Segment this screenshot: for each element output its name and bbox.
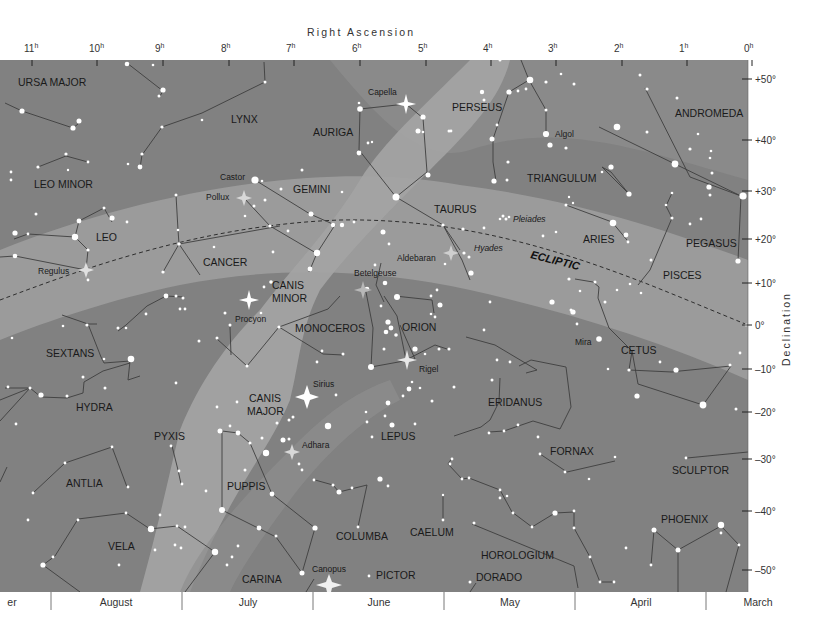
dec-axis-title: Declination [780, 292, 792, 366]
dec-tick-label: –40° [755, 506, 776, 517]
star-label-canopus: Canopus [312, 564, 346, 574]
constellation-label: LYNX [231, 113, 258, 125]
constellation-label: LEPUS [381, 430, 415, 442]
constellation-label: GEMINI [293, 183, 330, 195]
constellation-label: CANIS [272, 279, 304, 291]
constellation-label: TRIANGULUM [527, 172, 596, 184]
ra-tick-label: 2h [614, 42, 624, 54]
constellation-label: AURIGA [313, 126, 353, 138]
month-label: April [630, 596, 651, 608]
dec-tick-label: 0° [755, 320, 765, 331]
dec-tick-label: +20° [755, 234, 776, 245]
constellation-label: HYDRA [76, 401, 113, 413]
star-label-adhara: Adhara [302, 440, 330, 450]
constellation-label: MAJOR [247, 405, 284, 417]
star-label-rigel: Rigel [419, 364, 438, 374]
ra-tick-label: 5h [418, 42, 428, 54]
dec-tick-label: +10° [755, 278, 776, 289]
constellation-label: PERSEUS [452, 101, 502, 113]
constellation-label: PYXIS [154, 430, 185, 442]
dec-tick-label: –10° [755, 364, 776, 375]
constellation-label: HOROLOGIUM [481, 549, 554, 561]
dec-axis: +50°+40°+30°+20°+10°0°–10°–20°–30°–40°–5… [742, 60, 792, 592]
ra-tick-label: 7h [286, 42, 296, 54]
constellation-label: ANTLIA [66, 477, 103, 489]
star-label-procyon: Procyon [235, 314, 266, 324]
month-strip: erAugustJulyJuneMayAprilMarch [7, 592, 772, 610]
ra-tick-label: 1h [679, 42, 689, 54]
star-label-aldebaran: Aldebaran [397, 253, 436, 263]
star-label-castor: Castor [220, 172, 245, 182]
constellation-label: LEO MINOR [34, 178, 93, 190]
month-label: May [500, 596, 521, 608]
month-label: July [239, 596, 258, 608]
ra-tick-label: 6h [352, 42, 362, 54]
star-label-regulus: Regulus [38, 266, 69, 276]
dec-tick-label: +30° [755, 186, 776, 197]
constellation-label: PEGASUS [686, 237, 737, 249]
star-label-pollux: Pollux [206, 192, 230, 202]
constellation-label: CETUS [621, 344, 657, 356]
dec-tick-label: –20° [755, 407, 776, 418]
month-label: er [7, 596, 17, 608]
ra-tick-label: 4h [483, 42, 493, 54]
constellation-label: PHOENIX [661, 513, 708, 525]
star-label-mira: Mira [575, 337, 592, 347]
ra-tick-label: 10h [89, 42, 104, 54]
dec-tick-label: +40° [755, 135, 776, 146]
star-label-pleiades: Pleiades [513, 214, 546, 224]
constellation-label: PISCES [663, 269, 702, 281]
constellation-label: ANDROMEDA [675, 107, 743, 119]
star-label-algol: Algol [555, 129, 574, 139]
month-label: June [368, 596, 391, 608]
ra-tick-label: 8h [221, 42, 231, 54]
ra-tick-label: 3h [548, 42, 558, 54]
constellation-label: ARIES [583, 233, 615, 245]
month-label: March [743, 596, 772, 608]
constellation-label: FORNAX [550, 445, 594, 457]
constellation-label: CAELUM [410, 526, 454, 538]
star-label-capella: Capella [368, 87, 397, 97]
ra-tick-label: 0h [744, 42, 754, 54]
constellation-label: PUPPIS [227, 480, 266, 492]
ra-tick-label: 9h [155, 42, 165, 54]
constellation-label: LEO [96, 231, 117, 243]
constellation-label: DORADO [476, 571, 522, 583]
constellation-label: MONOCEROS [295, 322, 365, 334]
constellation-label: URSA MAJOR [18, 76, 87, 88]
month-label: August [100, 596, 133, 608]
constellation-label: ORION [402, 321, 436, 333]
constellation-label: COLUMBA [336, 530, 388, 542]
dec-tick-label: +50° [755, 74, 776, 85]
constellation-label: TAURUS [434, 203, 476, 215]
constellation-label: SCULPTOR [672, 464, 729, 476]
ra-axis-title: Right Ascension [307, 26, 415, 38]
constellation-label: CANCER [203, 256, 248, 268]
constellation-label: VELA [108, 540, 135, 552]
star-chart: URSA MAJOR LYNX AURIGA PERSEUS ANDROMEDA… [0, 0, 820, 634]
ra-tick-label: 11h [24, 42, 38, 54]
star-label-sirius: Sirius [313, 379, 334, 389]
constellation-label: CANIS [249, 392, 281, 404]
constellation-label: ERIDANUS [488, 396, 542, 408]
star-label-betelgeuse: Betelgeuse [354, 268, 397, 278]
star-label-hyades: Hyades [474, 243, 504, 253]
constellation-label: PICTOR [376, 569, 416, 581]
sky-background: URSA MAJOR LYNX AURIGA PERSEUS ANDROMEDA… [0, 59, 748, 601]
constellation-label: CARINA [242, 573, 282, 585]
constellation-label: SEXTANS [46, 347, 94, 359]
constellation-label: MINOR [272, 292, 307, 304]
dec-tick-label: –30° [755, 454, 776, 465]
dec-tick-label: –50° [755, 565, 776, 576]
